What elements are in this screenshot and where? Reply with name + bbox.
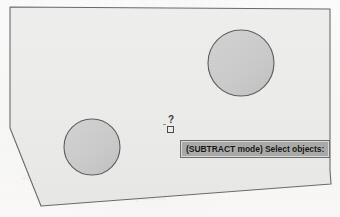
circle-left[interactable] xyxy=(64,119,120,175)
command-prompt-text: (SUBTRACT mode) Select objects: xyxy=(186,144,324,154)
cursor-query-glyph: ? xyxy=(167,114,175,125)
chamfered-region-outline[interactable] xyxy=(10,7,331,206)
circle-right[interactable] xyxy=(208,30,274,96)
pickbox-cursor[interactable] xyxy=(167,126,174,133)
cursor-tick-mark xyxy=(163,124,166,125)
autocad-figure-screenshot: Figure 8-23 region on which the solid ob… xyxy=(0,0,340,217)
cad-drawing-canvas xyxy=(0,0,340,217)
command-prompt-tooltip: (SUBTRACT mode) Select objects: xyxy=(181,141,329,157)
